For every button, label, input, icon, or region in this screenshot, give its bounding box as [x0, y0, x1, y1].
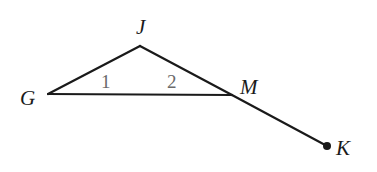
point-k-dot	[323, 142, 331, 150]
vertex-label-j: J	[136, 15, 147, 39]
segment-gm	[48, 94, 232, 95]
triangle-diagram: J G M K 1 2	[0, 0, 377, 172]
segment-gj	[48, 46, 140, 94]
segment-jm	[140, 46, 232, 95]
diagram-svg: J G M K 1 2	[0, 0, 377, 172]
segment-mk	[232, 95, 327, 146]
vertex-label-m: M	[239, 75, 259, 99]
angle-label-2: 2	[167, 71, 177, 92]
vertex-label-k: K	[335, 136, 351, 160]
angle-label-1: 1	[101, 71, 111, 92]
vertex-label-g: G	[20, 86, 35, 110]
